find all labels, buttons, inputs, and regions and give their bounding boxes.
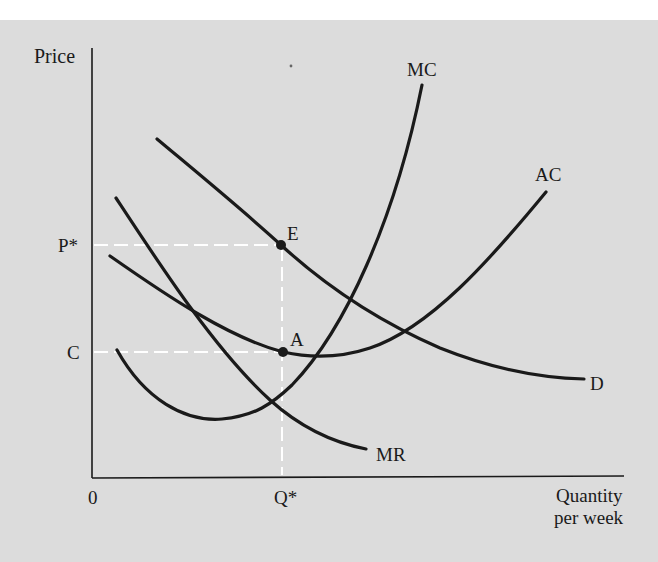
paper-speck (290, 65, 293, 68)
p-star-label: P* (58, 235, 78, 256)
marginal-cost-curve (117, 85, 422, 419)
origin-label: 0 (88, 487, 98, 508)
ac-curve-label: AC (535, 164, 561, 185)
y-axis-label: Price (34, 45, 75, 67)
d-curve-label: D (590, 373, 604, 394)
point-e-marker (276, 240, 286, 250)
mr-curve-label: MR (376, 444, 406, 465)
page: Price 0 Quantity per week P* C Q* MC AC … (0, 0, 658, 562)
mc-curve-label: MC (407, 59, 437, 80)
x-axis-label-line1: Quantity (556, 485, 623, 506)
diagram-canvas: Price 0 Quantity per week P* C Q* MC AC … (0, 0, 658, 562)
c-label: C (67, 342, 80, 363)
q-star-label: Q* (274, 487, 297, 508)
point-a-marker (278, 347, 288, 357)
point-e-label: E (287, 223, 299, 244)
point-a-label: A (290, 329, 304, 350)
marginal-revenue-curve (116, 198, 366, 449)
x-axis (92, 476, 624, 478)
x-axis-label-line2: per week (554, 507, 624, 528)
average-cost-curve (110, 192, 546, 356)
